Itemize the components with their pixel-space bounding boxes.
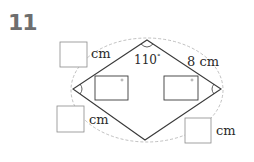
unit-label-bottom-right: cm xyxy=(216,123,236,138)
unit-label-bottom-left: cm xyxy=(89,112,109,127)
answer-box-side-bottom-right[interactable] xyxy=(185,118,211,143)
answer-box-side-top-left[interactable] xyxy=(60,42,87,67)
angle-arc-right xyxy=(212,84,214,94)
given-side-label: 8 cm xyxy=(187,54,219,69)
answer-box-side-bottom-left[interactable] xyxy=(57,106,84,132)
unit-label-top-left: cm xyxy=(91,46,111,61)
angle-arc-left xyxy=(80,84,82,94)
angle-arc-top xyxy=(141,44,153,47)
rhombus-diagram: 110° 8 cm cm cm cm xyxy=(0,0,254,162)
angle-top-label: 110° xyxy=(134,53,160,67)
